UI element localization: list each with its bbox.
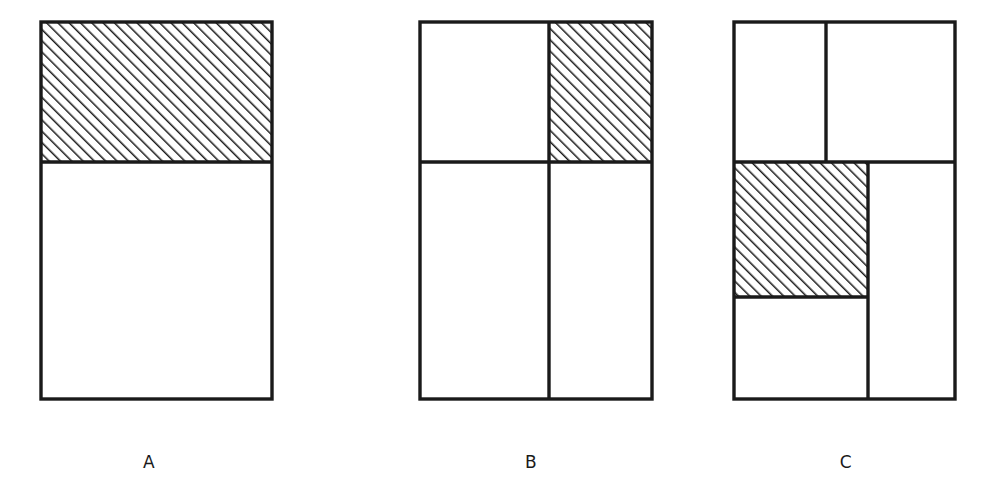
panel-b-unshaded-bottom-right [549,162,652,399]
panel-b-label: B [525,452,537,472]
panel-b-shaded-top-right [549,22,652,162]
panel-b-unshaded-bottom-left [420,162,549,399]
panel-c [734,22,955,399]
panel-c-label: C [840,452,852,472]
panel-a-label: A [143,452,155,472]
panel-c-unshaded-right-tall [868,162,955,399]
panel-b-unshaded-top-left [420,22,549,162]
panel-c-unshaded-lower-left [734,297,868,399]
panel-b [420,22,652,399]
panel-a [41,22,272,399]
panel-c-unshaded-top-right [826,22,955,162]
figure-canvas [0,0,988,495]
panel-c-shaded-middle-left [734,162,868,297]
panel-a-unshaded-bottom-band [41,162,272,399]
panel-a-shaded-top-band [41,22,272,162]
panel-c-unshaded-top-left [734,22,826,162]
